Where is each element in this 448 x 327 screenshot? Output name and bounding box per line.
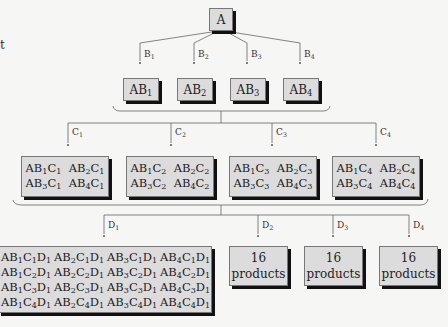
product-label: products [380,266,437,282]
product-term: AB2C2D1 [54,265,107,280]
node-c3-group: AB1C3 AB2C3 AB3C3 AB4C3 [229,156,317,197]
node-c2-group: AB1C2 AB2C2 AB3C2 AB4C2 [126,156,214,197]
product-count: 16 [305,250,362,266]
product-term: AB2C3D1 [54,280,107,295]
edge-label-b2: B2 [198,49,209,59]
product-term: AB1C3D1 [1,280,54,295]
product-row: AB1C1D1AB2C1D1AB3C1D1AB4C1D1 [1,250,211,265]
product-term: AB4C2D1 [160,265,213,280]
product-term: AB1C4D1 [1,295,54,310]
edge-label-b4: B4 [304,49,315,59]
edge-label-c3: C3 [276,127,287,137]
root-label: A [217,13,226,27]
product-term: AB1C1D1 [1,250,54,265]
product-count: 16 [230,250,287,266]
node-d2-summary: 16 products [229,246,288,286]
node-ab2: AB2 [177,78,213,101]
product-term: AB2C4D1 [54,295,107,310]
edge-label-b3: B3 [251,49,262,59]
product-term: AB3C1D1 [107,250,160,265]
node-c1-group: AB1C1 AB2C1 AB3C1 AB4C1 [21,156,109,197]
product-term: AB4C1D1 [160,250,213,265]
node-c4-group: AB1C4 AB2C4 AB3C4 AB4C4 [332,156,420,197]
node-d4-summary: 16 products [379,246,438,286]
edge-label-c2: C2 [175,127,186,137]
edge-label-d4: D4 [413,220,424,230]
product-label: products [230,266,287,282]
product-row: AB1C3D1AB2C3D1AB3C3D1AB4C3D1 [1,280,211,295]
product-term: AB3C2D1 [107,265,160,280]
product-term: AB2C1D1 [54,250,107,265]
edge-label-d3: D3 [337,220,348,230]
product-label: products [305,266,362,282]
node-d3-summary: 16 products [304,246,363,286]
product-term: AB4C4D1 [160,295,213,310]
product-row: AB1C2D1AB2C2D1AB3C2D1AB4C2D1 [1,265,211,280]
product-term: AB3C3D1 [107,280,160,295]
edge-label-c4: C4 [380,127,391,137]
node-ab1: AB1 [123,78,159,101]
product-term: AB3C4D1 [107,295,160,310]
edge-label-d2: D2 [262,220,273,230]
node-d1-products: AB1C1D1AB2C1D1AB3C1D1AB4C1D1AB1C2D1AB2C2… [0,246,212,313]
product-count: 16 [380,250,437,266]
edge-label-c1: C1 [72,127,83,137]
product-term: AB1C2D1 [1,265,54,280]
edge-label-b1: B1 [144,49,155,59]
node-ab4: AB4 [283,78,319,101]
product-term: AB4C3D1 [160,280,213,295]
cut-off-text-fragment: t [0,38,5,52]
root-node-a: A [209,8,233,31]
product-row: AB1C4D1AB2C4D1AB3C4D1AB4C4D1 [1,295,211,310]
edge-label-d1: D1 [108,220,119,230]
node-ab3: AB3 [230,78,266,101]
